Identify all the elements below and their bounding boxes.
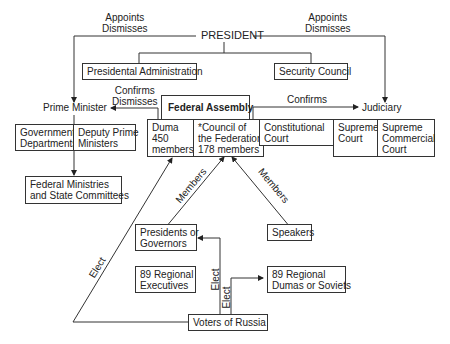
judiciary-label: Judiciary xyxy=(362,102,401,113)
confirms-judiciary-label: Confirms xyxy=(287,94,327,105)
elect-label-mid1: Elect xyxy=(210,268,221,290)
voters-of-russia-box: Voters of Russia xyxy=(188,314,268,331)
presidents-governors-box: Presidents orGovernors xyxy=(135,224,197,251)
russian-government-diagram: AppointsDismisses PRESIDENT AppointsDism… xyxy=(0,0,450,344)
deputy-prime-ministers-box: Deputy PrimeMinisters xyxy=(73,124,136,151)
regional-executives-box: 89 RegionalExecutives xyxy=(135,266,196,293)
elect-label-mid2: Elect xyxy=(221,286,232,308)
constitutional-court-box: ConstitutionalCourt xyxy=(259,119,334,146)
presidential-administration-box: Presidental Administration xyxy=(82,63,197,80)
regional-dumas-box: 89 RegionalDumas or Soviets xyxy=(267,266,346,293)
prime-minister-label: Prime Minister xyxy=(43,102,107,113)
duma-box: Duma450members xyxy=(147,119,194,157)
government-departments-box: GovernmentDepartments xyxy=(15,124,74,151)
security-council-box: Security Council xyxy=(274,63,348,80)
federal-assembly-box: Federal Assembly xyxy=(161,95,250,120)
supreme-court-box: SupremeCourt xyxy=(333,119,378,157)
appoints-label-left: AppointsDismisses xyxy=(102,12,148,34)
supreme-commercial-court-box: SupremeCommercialCourt xyxy=(377,119,435,157)
appoints-label-right: AppointsDismisses xyxy=(305,12,351,34)
federal-ministries-box: Federal Ministriesand State Committees xyxy=(25,176,122,204)
president-label: PRESIDENT xyxy=(201,30,264,41)
council-federation-box: *Council ofthe Federation178 members xyxy=(193,119,264,157)
speakers-box: Speakers xyxy=(267,224,312,241)
confirms-dismisses-label: ConfirmsDismisses xyxy=(112,85,158,107)
